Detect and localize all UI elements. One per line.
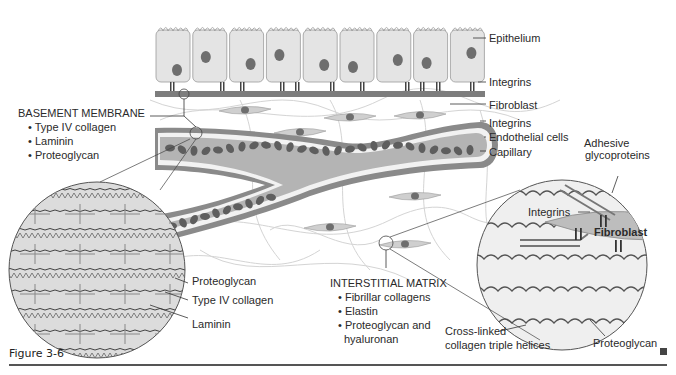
label-capillary: Capillary [489,146,532,158]
interstitial-matrix-item: • Fibrillar collagens [338,291,431,303]
integrin [283,82,285,91]
integrin [330,82,332,91]
microvilli [305,28,335,32]
fibroblast-nucleus [241,107,249,114]
integrin [298,82,300,91]
inset-integrin [575,228,577,240]
integrin [295,82,297,91]
nucleus [466,47,476,59]
basement-membrane-item: • Type IV collagen [28,121,116,133]
fibroblast-nucleus [296,129,304,136]
epithelial-cell [414,30,448,82]
inset-integrin [620,240,622,252]
interstitial-matrix-item: hyaluronan [344,333,398,345]
epithelial-cell [303,30,337,82]
nucleus [201,51,211,63]
integrin [173,82,175,91]
inset-label-proteoglycan: Proteoglycan [192,275,256,287]
nucleus [422,57,432,69]
label-cross-linked: Cross-linked [445,325,506,337]
inset-integrin [580,228,582,240]
integrin [439,82,441,91]
label-adhesive: Adhesive [584,137,629,149]
microvilli [342,28,372,32]
square-marker [660,348,667,355]
integrin [436,82,438,91]
integrin [420,82,422,91]
basement-membrane-item: • Proteoglycan [28,149,99,161]
integrin [243,82,245,91]
label-inset-integrins: Integrins [528,206,571,218]
fibroblast-nucleus [411,193,419,200]
microvilli [416,28,446,32]
interstitial-matrix-item: • Proteoglycan and [338,319,431,331]
integrin [280,82,282,91]
basement-membrane-title: BASEMENT MEMBRANE [18,107,145,119]
integrin [363,82,365,91]
inset-label-type-iv-collagen: Type IV collagen [192,294,273,306]
nucleus [319,59,329,71]
microvilli [195,28,225,32]
nucleus [393,54,403,66]
fibroblast-nucleus [416,112,424,119]
label-inset-fibroblast: Fibroblast [594,226,648,238]
label-collagen-triple-helices: collagen triple helices [445,339,551,351]
nucleus [274,49,284,61]
fibroblast-nucleus [346,114,354,121]
epithelial-cell [340,30,374,82]
integrin [423,82,425,91]
integrin [470,82,472,91]
integrin [405,82,407,91]
inset-label-laminin: Laminin [192,318,231,330]
label-integrins-endothelial: Integrins [489,117,532,129]
integrin [170,82,172,91]
microvilli [379,28,409,32]
integrin [408,82,410,91]
epithelium [156,28,484,83]
integrin [360,82,362,91]
nucleus [348,61,358,73]
extracellular-matrix-diagram: BASEMENT MEMBRANE • Type IV collagen • L… [0,0,676,375]
integrin [333,82,335,91]
microvilli [158,28,188,32]
integrin [223,82,225,91]
label-fibroblast: Fibroblast [489,99,537,111]
caption-rule [9,364,667,366]
integrin-marks [170,82,475,91]
epithelial-cell [156,30,190,82]
epithelial-cell [230,30,264,82]
epithelial-cells [156,28,484,83]
label-inset-proteoglycan: Proteoglycan [593,337,657,349]
label-endothelial-cells: Endothelial cells [489,131,569,143]
figure-caption: Figure 3-6 [9,347,64,360]
microvilli [232,28,262,32]
epithelial-cell [377,30,411,82]
label-glycoproteins: glycoproteins [585,149,650,161]
integrin [240,82,242,91]
basement-membrane-inset [5,182,197,358]
interstitial-matrix-title: INTERSTITIAL MATRIX [330,277,447,289]
fibroblast-nucleus [326,224,334,231]
basement-membrane-item: • Laminin [28,135,73,147]
nucleus [246,58,256,70]
label-epithelium: Epithelium [489,32,540,44]
integrin [473,82,475,91]
inset-integrin [615,240,617,252]
nucleus [172,64,182,76]
microvilli [268,28,298,32]
basement-membrane [155,91,485,97]
integrin [220,82,222,91]
label-integrins-epithelial: Integrins [489,76,532,88]
fibroblast-nucleus [401,241,409,248]
interstitial-matrix-item: • Elastin [338,305,378,317]
microvilli [452,28,482,32]
